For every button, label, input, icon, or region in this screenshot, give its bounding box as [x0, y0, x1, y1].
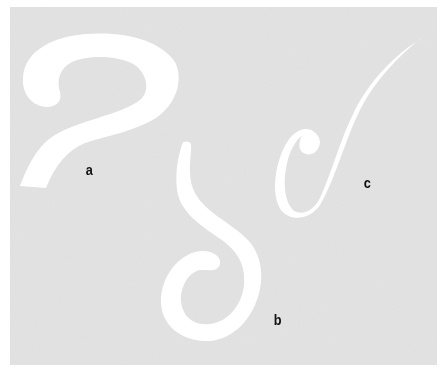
- label-b: b: [274, 312, 282, 327]
- figure-canvas: [10, 7, 437, 365]
- label-a: a: [86, 162, 93, 177]
- figure-panel: a b c: [10, 7, 437, 365]
- shape-c-knob: [300, 132, 320, 152]
- label-c: c: [364, 175, 371, 190]
